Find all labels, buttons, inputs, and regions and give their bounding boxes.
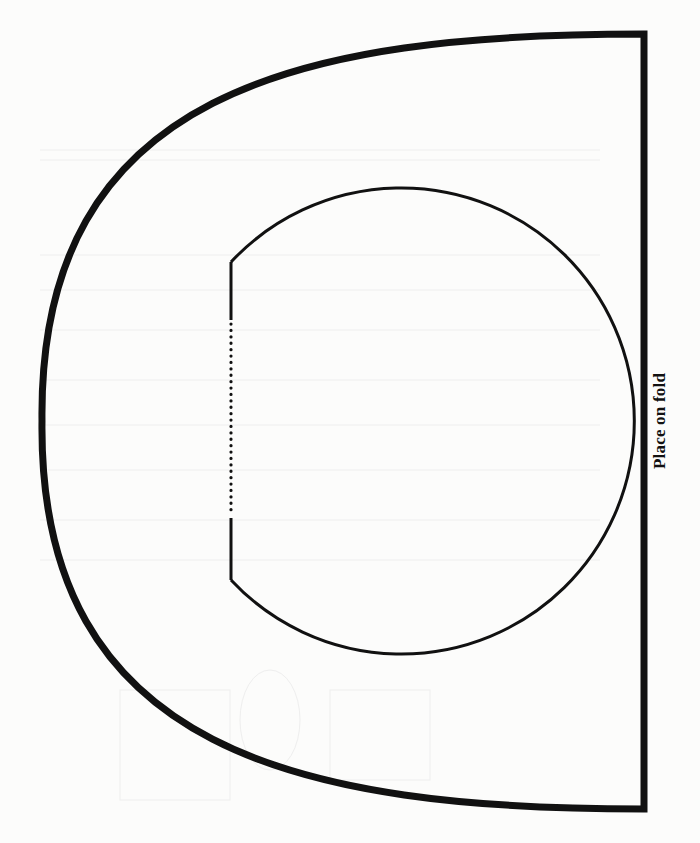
bleed-through-marks (40, 150, 600, 800)
pattern-template-drawing (0, 0, 700, 843)
sewing-pattern-page: Place on fold (0, 0, 700, 843)
place-on-fold-label: Place on fold (650, 373, 670, 469)
inner-cutout-arc (231, 188, 634, 654)
